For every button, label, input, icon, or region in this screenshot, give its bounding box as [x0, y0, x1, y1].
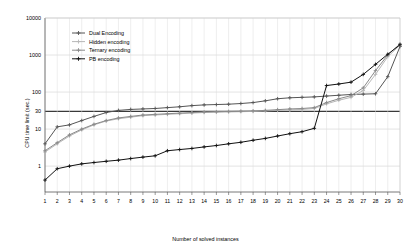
x-tick-label: 7: [117, 198, 120, 204]
legend-label: Ternary encoding: [89, 47, 130, 53]
legend-label: Hidden encoding: [89, 39, 129, 45]
legend-item-1[interactable]: Hidden encoding: [72, 39, 129, 45]
y-tick-label: 10: [35, 126, 41, 132]
x-tick-label: 3: [68, 198, 71, 204]
x-tick-label: 13: [189, 198, 195, 204]
x-tick-label: 17: [238, 198, 244, 204]
x-tick-label: 11: [165, 198, 170, 204]
y-tick-label: 10000: [26, 15, 41, 21]
x-tick-label: 18: [250, 198, 256, 204]
legend-item-0[interactable]: Dual Encoding: [72, 30, 124, 36]
x-tick-label: 19: [262, 198, 268, 204]
plot-area: 1000010001003010112345678910111213141516…: [0, 0, 411, 245]
x-tick-label: 14: [201, 198, 207, 204]
x-tick-label: 9: [141, 198, 144, 204]
x-tick-label: 21: [287, 198, 293, 204]
x-tick-label: 16: [226, 198, 232, 204]
x-tick-label: 28: [373, 198, 379, 204]
x-tick-label: 27: [360, 198, 366, 204]
cpu-time-line-chart: CPU time limit (sec.) Number of solved i…: [0, 0, 411, 245]
y-tick-label: 30: [35, 108, 41, 114]
legend-item-2[interactable]: Ternary encoding: [72, 47, 130, 53]
x-tick-label: 8: [129, 198, 132, 204]
y-tick-label: 100: [32, 89, 41, 95]
x-tick-label: 2: [56, 198, 59, 204]
x-tick-label: 15: [213, 198, 219, 204]
x-tick-label: 23: [311, 198, 317, 204]
x-tick-label: 4: [80, 198, 83, 204]
x-tick-label: 29: [385, 198, 391, 204]
y-tick-label: 1000: [29, 52, 41, 58]
x-tick-label: 12: [177, 198, 183, 204]
x-tick-label: 20: [275, 198, 281, 204]
x-tick-label: 25: [336, 198, 342, 204]
legend-label: PB encoding: [89, 56, 120, 62]
x-tick-label: 22: [299, 198, 305, 204]
legend-label: Dual Encoding: [89, 30, 124, 36]
x-tick-label: 30: [397, 198, 403, 204]
x-tick-label: 24: [324, 198, 330, 204]
x-tick-label: 1: [44, 198, 47, 204]
y-tick-label: 1: [38, 163, 41, 169]
x-tick-label: 5: [93, 198, 96, 204]
legend-item-3[interactable]: PB encoding: [72, 56, 120, 62]
x-tick-label: 6: [105, 198, 108, 204]
x-tick-label: 26: [348, 198, 354, 204]
x-tick-label: 10: [152, 198, 158, 204]
